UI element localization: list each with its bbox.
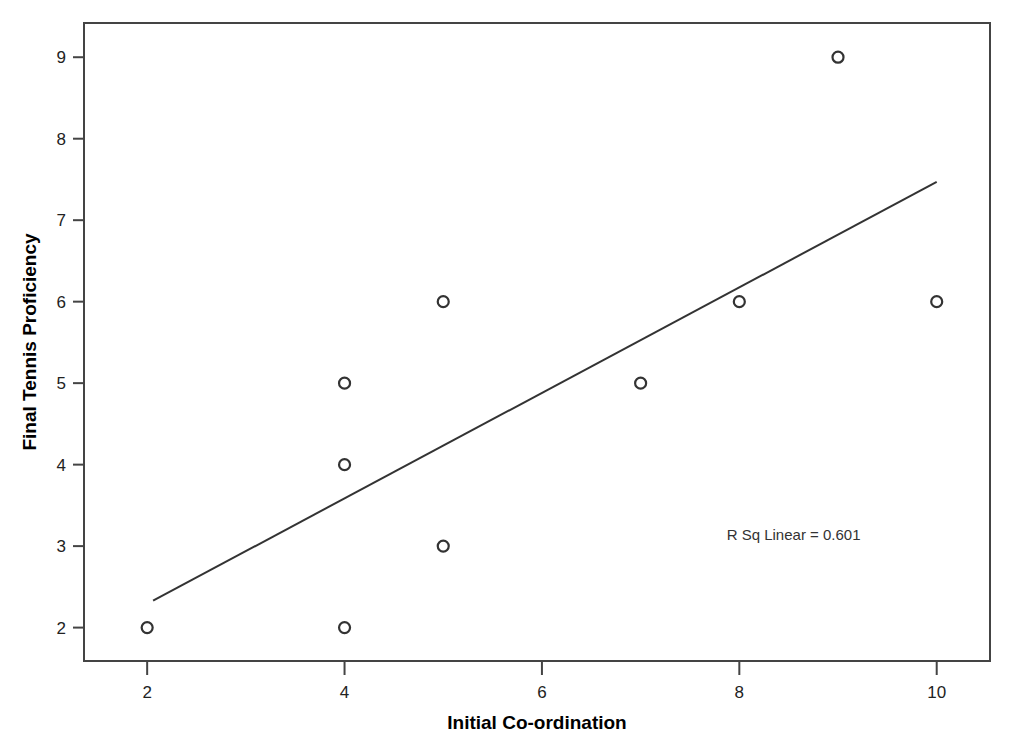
y-tick-label: 2 <box>57 619 66 638</box>
x-tick-label: 2 <box>142 683 151 702</box>
y-tick-label: 5 <box>57 374 66 393</box>
y-tick-label: 8 <box>57 130 66 149</box>
y-axis-title: Final Tennis Proficiency <box>19 233 40 451</box>
x-tick-label: 8 <box>735 683 744 702</box>
chart-canvas: 23456789 246810 R Sq Linear = 0.601 Init… <box>0 0 1012 751</box>
x-tick-label: 10 <box>927 683 946 702</box>
x-tick-label: 6 <box>537 683 546 702</box>
x-tick-label: 4 <box>340 683 349 702</box>
x-axis-ticks: 246810 <box>142 661 946 702</box>
r-squared-annotation: R Sq Linear = 0.601 <box>727 526 861 543</box>
y-tick-label: 9 <box>57 48 66 67</box>
y-axis-ticks: 23456789 <box>57 48 84 637</box>
y-tick-label: 7 <box>57 211 66 230</box>
x-axis-title: Initial Co-ordination <box>447 712 626 733</box>
scatter-plot-figure: 23456789 246810 R Sq Linear = 0.601 Init… <box>0 0 1012 751</box>
y-tick-label: 4 <box>57 456 66 475</box>
y-tick-label: 3 <box>57 537 66 556</box>
y-tick-label: 6 <box>57 293 66 312</box>
